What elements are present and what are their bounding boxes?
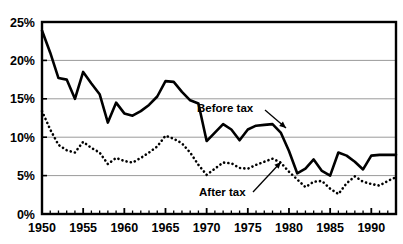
grid-lines (42, 60, 396, 175)
y-tick-label: 25% (10, 16, 35, 30)
line-chart: 0%5%10%15%20%25% 19501955196019651970197… (0, 0, 403, 244)
x-tick-label: 1970 (193, 221, 221, 235)
chart-container: 0%5%10%15%20%25% 19501955196019651970197… (0, 0, 403, 244)
x-tick-label: 1950 (28, 221, 56, 235)
y-tick-label: 10% (10, 131, 35, 145)
x-tick-label: 1990 (357, 221, 385, 235)
x-tick-label: 1960 (110, 221, 138, 235)
x-tick-label: 1955 (69, 221, 97, 235)
series-line-after-tax (42, 111, 396, 194)
y-tick-label: 15% (10, 92, 35, 106)
after-tax-label: After tax (199, 186, 246, 198)
before-tax-label: Before tax (197, 102, 254, 114)
y-tick-label: 5% (17, 169, 35, 183)
x-tick-label: 1965 (152, 221, 180, 235)
series-annotations: Before taxAfter tax (197, 102, 286, 198)
y-tick-label: 0% (17, 208, 35, 222)
x-tick-label: 1980 (275, 221, 303, 235)
y-axis-tick-labels: 0%5%10%15%20%25% (10, 16, 35, 222)
y-tick-label: 20% (10, 54, 35, 68)
x-tick-label: 1975 (234, 221, 262, 235)
x-axis-tick-labels: 195019551960196519701975198019851990 (28, 221, 385, 235)
x-tick-label: 1985 (316, 221, 344, 235)
